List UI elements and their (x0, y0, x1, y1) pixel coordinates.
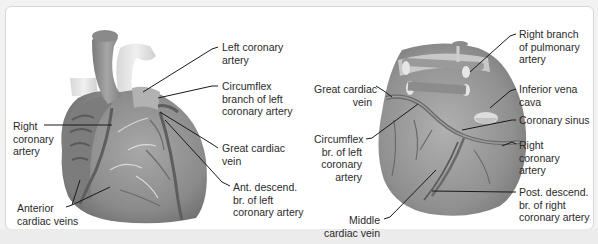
label-inferior-vena-cava: Inferior vena cava (519, 83, 577, 108)
label-great-cardiac-vein-posterior: Great cardiac vein (314, 83, 372, 108)
label-left-coronary-artery: Left coronary artery (222, 41, 283, 66)
anterior-heart (61, 30, 207, 223)
label-circumflex-br: Circumflex br. of left coronary artery (314, 133, 362, 183)
label-right-coronary-artery-posterior: Right coronary artery (519, 139, 560, 177)
label-ant-descend-branch: Ant. descend. br. of left coronary arter… (233, 181, 304, 219)
label-right-coronary-artery: Right coronary artery (13, 120, 54, 158)
label-circumflex-branch: Circumflex branch of left coronary arter… (222, 80, 293, 118)
label-great-cardiac-vein: Great cardiac vein (222, 142, 285, 167)
label-anterior-cardiac-veins: Anterior cardiac veins (17, 202, 78, 227)
posterior-heart (378, 41, 526, 216)
label-post-descend-branch: Post. descend. br. of right coronary art… (519, 186, 590, 224)
label-right-branch-pulmonary-artery: Right branch of pulmonary artery (519, 28, 580, 66)
label-middle-cardiac-vein: Middle cardiac vein (320, 214, 380, 239)
label-coronary-sinus: Coronary sinus (519, 114, 590, 127)
